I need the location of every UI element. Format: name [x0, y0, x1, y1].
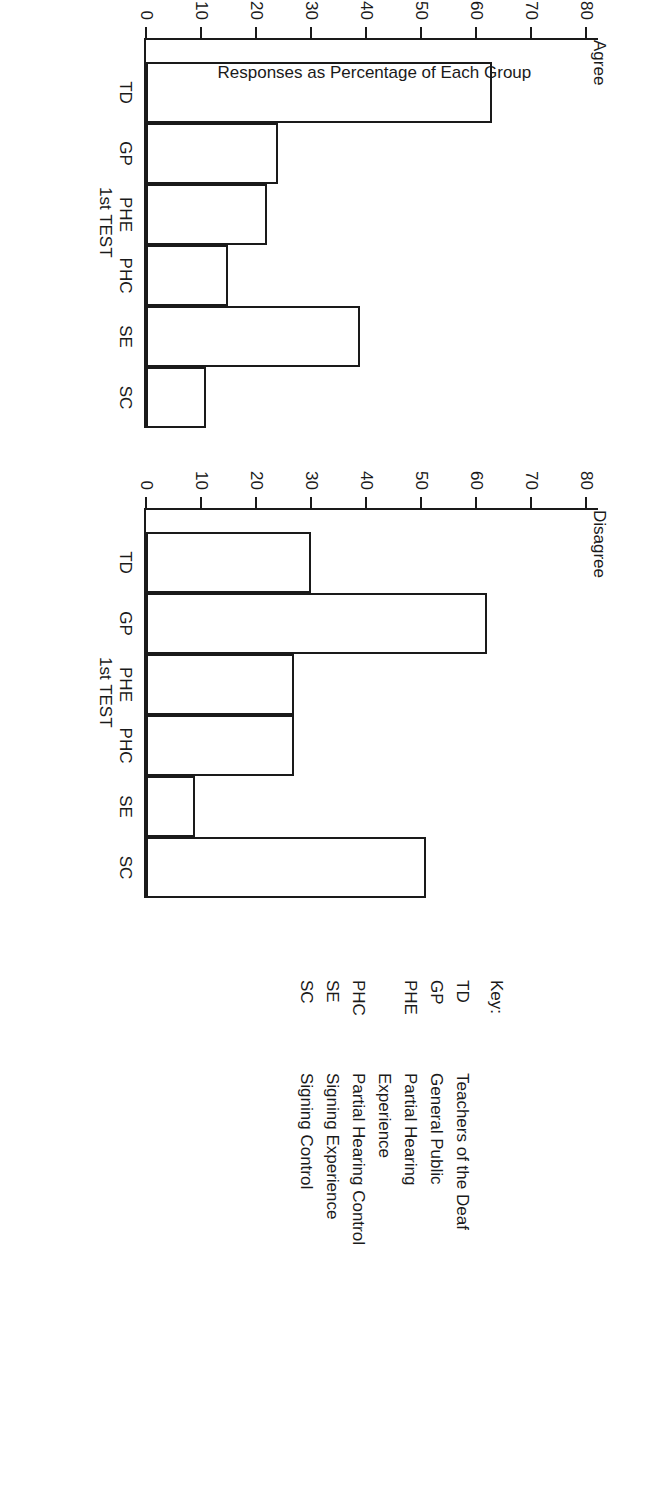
- y-axis-tick: [475, 497, 477, 509]
- y-axis-tick: [365, 27, 367, 39]
- y-axis-tick: [200, 27, 202, 39]
- figure-canvas: Agree 01020304050607080TDGPPHEPHCSESC1st…: [0, 0, 650, 1499]
- y-axis-tick-label: 60: [468, 450, 485, 490]
- x-axis-category-label-td: TD: [117, 62, 134, 123]
- y-axis-tick-label: 40: [358, 450, 375, 490]
- y-axis-tick: [145, 27, 147, 39]
- y-axis-tick-label: 20: [248, 450, 265, 490]
- y-axis-tick-label: 0: [138, 0, 155, 20]
- bar-sc: [146, 367, 207, 428]
- x-axis-category-label-se: SE: [117, 306, 134, 367]
- x-axis-category-label-sc: SC: [117, 837, 134, 898]
- y-axis-tick-label: 10: [193, 0, 210, 20]
- y-axis-tick-label: 50: [413, 450, 430, 490]
- y-axis-tick: [255, 27, 257, 39]
- y-axis-tick: [530, 497, 532, 509]
- legend-label-se: Signing Experience: [324, 1073, 341, 1219]
- y-axis-tick-label: 30: [303, 450, 320, 490]
- legend-label-phe: Partial Hearing: [402, 1073, 419, 1185]
- legend-abbr-phe: PHE: [402, 980, 419, 1015]
- x-axis-category-label-phc: PHC: [117, 245, 134, 306]
- y-axis-tick-label: 80: [578, 0, 595, 20]
- x-axis-category-label-gp: GP: [117, 593, 134, 654]
- y-axis-tick: [585, 27, 587, 39]
- x-axis-category-label-phe: PHE: [117, 184, 134, 245]
- bar-gp: [146, 593, 487, 654]
- y-axis-tick: [255, 497, 257, 509]
- legend-key: Key: TDTeachers of the DeafGPGeneral Pub…: [0, 980, 650, 1499]
- bar-gp: [146, 123, 278, 184]
- bar-phc: [146, 715, 295, 776]
- y-axis-tick: [365, 497, 367, 509]
- legend-abbr-td: TD: [454, 980, 471, 1003]
- y-axis-tick-label: 70: [523, 450, 540, 490]
- legend-abbr-phc: PHC: [350, 980, 367, 1016]
- bar-td: [146, 532, 311, 593]
- y-axis-tick: [310, 497, 312, 509]
- y-axis-tick: [585, 497, 587, 509]
- bar-phe: [146, 184, 267, 245]
- y-axis-tick-label: 70: [523, 0, 540, 20]
- y-axis-tick-label: 10: [193, 450, 210, 490]
- legend-label-td: Teachers of the Deaf: [454, 1073, 471, 1230]
- y-axis-tick-label: 60: [468, 0, 485, 20]
- x-axis-title: 1st TEST: [97, 187, 114, 258]
- x-axis-category-label-gp: GP: [117, 123, 134, 184]
- y-axis-tick: [200, 497, 202, 509]
- x-axis-title: 1st TEST: [97, 657, 114, 728]
- x-axis-category-label-phc: PHC: [117, 715, 134, 776]
- bar-phe: [146, 654, 295, 715]
- y-axis-tick-label: 50: [413, 0, 430, 20]
- bar-phc: [146, 245, 229, 306]
- x-axis-category-label-se: SE: [117, 776, 134, 837]
- bar-se: [146, 776, 196, 837]
- y-axis-tick-label: 80: [578, 450, 595, 490]
- legend-heading: Key:: [488, 980, 505, 1014]
- legend-label-gp: General Public: [428, 1073, 445, 1185]
- legend-abbr-se: SE: [324, 980, 341, 1003]
- y-axis-tick: [145, 497, 147, 509]
- chart-panel-disagree: Disagree 01020304050607080TDGPPHEPHCSESC…: [0, 470, 650, 940]
- x-axis-category-label-sc: SC: [117, 367, 134, 428]
- y-axis-tick-label: 40: [358, 0, 375, 20]
- y-axis-tick-label: 0: [138, 450, 155, 490]
- legend-label-sc: Signing Control: [298, 1073, 315, 1189]
- legend-label-cont-3: Experience: [376, 1073, 393, 1158]
- x-axis-category-label-phe: PHE: [117, 654, 134, 715]
- chart-panel-agree: Agree 01020304050607080TDGPPHEPHCSESC1st…: [0, 0, 650, 470]
- y-axis-title: Responses as Percentage of Each Group: [218, 64, 518, 81]
- y-axis-tick-label: 30: [303, 0, 320, 20]
- y-axis-tick: [420, 497, 422, 509]
- bar-sc: [146, 837, 427, 898]
- y-axis-tick: [310, 27, 312, 39]
- y-axis-tick: [475, 27, 477, 39]
- y-axis-tick: [530, 27, 532, 39]
- bar-se: [146, 306, 361, 367]
- y-axis-tick: [420, 27, 422, 39]
- legend-abbr-sc: SC: [298, 980, 315, 1004]
- legend-label-phc: Partial Hearing Control: [350, 1073, 367, 1245]
- legend-abbr-gp: GP: [428, 980, 445, 1005]
- y-axis-tick-label: 20: [248, 0, 265, 20]
- x-axis-category-label-td: TD: [117, 532, 134, 593]
